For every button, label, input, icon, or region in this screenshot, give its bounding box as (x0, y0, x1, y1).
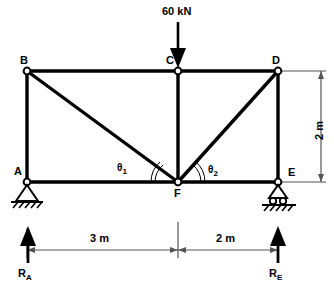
dim-arrow-top (318, 71, 324, 79)
joint-B (24, 68, 31, 75)
ra-arrow-head (20, 226, 36, 246)
truss-diagram: 60 kN B C D A F E θ1 θ2 3 m 2 m 2 m RA R… (0, 0, 334, 286)
dim-arrow-mid-l (170, 247, 178, 253)
re-subscript: E (277, 273, 282, 282)
reaction-arrow-re (270, 226, 286, 263)
node-label-b: B (20, 55, 28, 66)
truss-joints (24, 68, 282, 186)
pin-triangle (16, 185, 38, 201)
load-label: 60 kN (162, 6, 191, 17)
theta2-arc-inner (193, 165, 201, 182)
theta2-subscript: 2 (213, 169, 217, 178)
reaction-label-re: RE (269, 268, 282, 282)
angle-label-theta1: θ1 (117, 163, 127, 176)
dimension-label-2m-right: 2 m (216, 233, 235, 244)
truss-members (27, 71, 278, 182)
member-F-D (178, 71, 278, 182)
reaction-label-ra: RA (18, 268, 32, 282)
dim-arrow-mid-r (178, 247, 186, 253)
node-label-a: A (14, 166, 22, 177)
ra-symbol: R (18, 267, 26, 279)
re-symbol: R (269, 267, 277, 279)
node-label-d: D (272, 55, 280, 66)
joint-C (175, 68, 182, 75)
dimension-label-3m: 3 m (90, 233, 109, 244)
truss-svg-canvas (0, 0, 334, 286)
node-label-c: C (166, 55, 174, 66)
joint-F (175, 179, 182, 186)
node-label-f: F (174, 188, 181, 199)
node-label-e: E (288, 167, 295, 178)
roller-triangle (269, 185, 287, 198)
member-B-F (27, 71, 178, 182)
re-arrow-head (270, 226, 286, 246)
ra-subscript: A (26, 273, 32, 282)
dimension-label-2m-height: 2 m (314, 121, 325, 140)
support-pin-a (11, 185, 43, 208)
angle-label-theta2: θ2 (208, 165, 218, 178)
joint-D (275, 68, 282, 75)
theta1-subscript: 1 (122, 167, 126, 176)
dim-arrow-bottom (318, 174, 324, 182)
support-roller-e (262, 185, 296, 211)
reaction-arrow-ra (20, 226, 36, 263)
